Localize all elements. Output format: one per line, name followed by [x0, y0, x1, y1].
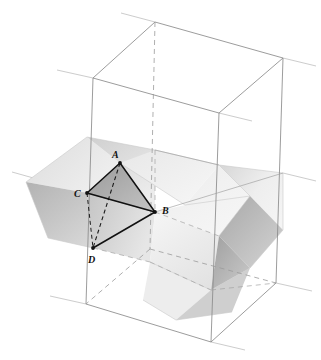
construction-line [50, 296, 86, 304]
construction-line [283, 173, 316, 181]
vertex-label-b: B [161, 205, 169, 216]
geometry-diagram: A B C D [0, 0, 321, 360]
construction-line [276, 283, 312, 291]
inscribed-solid [26, 137, 283, 320]
cube-edge-top-back-right [155, 22, 283, 58]
cube-edge-top-front-right [219, 58, 283, 113]
construction-line [211, 342, 245, 350]
vertex-label-d: D [87, 254, 95, 265]
vertex-label-c: C [74, 188, 81, 199]
construction-line [283, 58, 316, 66]
cube-edge-top-left-front [93, 78, 219, 113]
vertex-label-a: A [111, 149, 119, 160]
construction-line [57, 70, 93, 78]
cube-edge-hidden-bottom-left [86, 249, 150, 304]
construction-line [219, 113, 252, 121]
vertex-point-b [153, 210, 157, 214]
vertex-point-a [118, 161, 122, 165]
vertex-point-c [85, 191, 89, 195]
cube-edge-vertical-right [276, 58, 283, 283]
figure-canvas: A B C D [0, 0, 321, 360]
construction-line [121, 13, 155, 22]
vertex-point-d [91, 246, 95, 250]
cube-edge-top-back-left [93, 22, 155, 78]
